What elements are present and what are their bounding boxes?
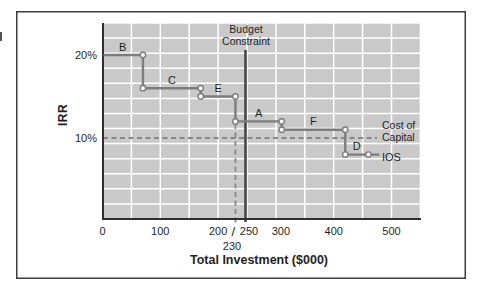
x-tick-label: 250 <box>240 225 258 237</box>
x-tick-label: 0 <box>99 225 105 237</box>
ios-curve-label: IOS <box>382 151 401 163</box>
page: BCEAFD0100200250300400500/23020%10% Budg… <box>0 0 484 296</box>
x-axis-title: Total Investment ($000) <box>190 253 328 267</box>
project-label: D <box>353 140 361 152</box>
figure-frame: BCEAFD0100200250300400500/23020%10% Budg… <box>16 11 466 279</box>
project-label: E <box>214 82 221 94</box>
budget-constraint-label: Budget Constraint <box>211 24 281 47</box>
junction-marker <box>279 127 284 132</box>
junction-marker <box>140 86 145 91</box>
cost-of-capital-label: Cost of Capital <box>382 120 426 143</box>
project-label: A <box>255 107 263 119</box>
x-tick-label: 100 <box>151 225 169 237</box>
junction-marker <box>140 52 145 57</box>
y-axis-title: IRR <box>56 104 70 126</box>
x-tick-label: 500 <box>382 225 400 237</box>
y-tick-label: 10% <box>75 132 97 144</box>
ios-chart: BCEAFD0100200250300400500/23020%10% <box>16 11 466 279</box>
junction-marker <box>233 119 238 124</box>
junction-marker <box>366 152 371 157</box>
project-label: B <box>119 41 126 53</box>
cum-at-budget-label: 230 <box>223 240 241 252</box>
junction-marker <box>343 152 348 157</box>
junction-marker <box>343 127 348 132</box>
x-tick-label: 400 <box>325 225 343 237</box>
junction-marker <box>198 94 203 99</box>
project-label: F <box>310 115 317 127</box>
budget-slash: / <box>232 224 236 239</box>
y-tick-label: 20% <box>75 49 97 61</box>
project-label: C <box>168 74 176 86</box>
junction-marker <box>198 86 203 91</box>
x-tick-label: 200 <box>209 225 227 237</box>
x-tick-label: 300 <box>272 225 290 237</box>
junction-marker <box>279 119 284 124</box>
page-margin-artifact <box>0 32 2 41</box>
junction-marker <box>233 94 238 99</box>
